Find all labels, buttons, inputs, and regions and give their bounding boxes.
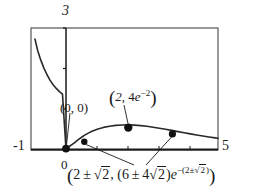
point-inflection-left — [81, 139, 87, 145]
inflect-two: 2 — [73, 167, 80, 182]
point-inflection-right — [169, 130, 176, 137]
math-figure: 3 -1 5 0 (0, 0) (2, 4e−2) (2 ± √2, (6 ± … — [0, 0, 277, 196]
inflect-sqrt-radicand-2: 2 — [157, 166, 166, 182]
annotation-inflection-points: (2 ± √2, (6 ± 4√2)e−(2±√2)) — [67, 166, 215, 185]
leader-max — [124, 105, 128, 124]
annotation-maximum-point: (2, 4e−2) — [109, 88, 157, 107]
x-axis — [31, 146, 218, 150]
x-axis-max-label: 5 — [222, 139, 229, 153]
inflect-exponent: −(2±√2) — [177, 164, 209, 175]
leader-inflection-left — [86, 145, 134, 166]
inflect-close-paren: ) — [209, 165, 215, 186]
inflect-plusminus-2: ± — [132, 167, 140, 182]
point-maximum — [124, 123, 132, 131]
y-axis-max-label: 3 — [62, 4, 69, 18]
point-origin — [62, 145, 70, 153]
inflect-sqrt-radicand-1: 2 — [101, 166, 110, 182]
x-axis-min-label: -1 — [13, 139, 25, 153]
max-close-paren: ) — [150, 87, 156, 108]
sqrt-radical-2: √ — [149, 167, 157, 182]
annotation-origin-point: (0, 0) — [60, 101, 88, 114]
max-exponent: −2 — [141, 88, 151, 98]
inflect-six: 6 — [122, 167, 129, 182]
leader-origin — [67, 113, 71, 145]
leader-inflection-right — [146, 137, 172, 165]
max-separator: , 4 — [122, 89, 135, 104]
inflect-plusminus-1: ± — [83, 167, 91, 182]
inflect-comma: , ( — [110, 167, 122, 182]
